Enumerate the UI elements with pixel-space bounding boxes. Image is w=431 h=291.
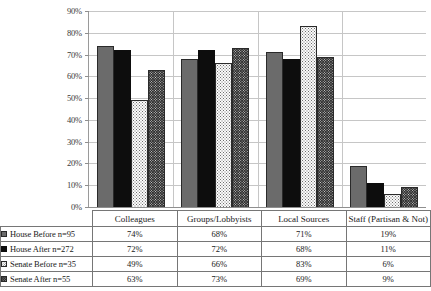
bar-group [89,11,173,207]
legend-swatch-icon [1,276,7,282]
legend-label: House After n=272 [10,244,74,254]
bar [283,59,300,207]
bar [215,63,232,207]
table-cell-value: 72% [177,242,262,257]
table-row: Senate After n=5563%73%69%9% [1,272,431,287]
y-tickmark [85,207,89,208]
legend-swatch-icon [1,231,7,237]
data-table-region: ColleaguesGroups/LobbyistsLocal SourcesS… [0,210,430,287]
y-tick-label: 60% [67,71,82,81]
legend-entry: Senate Before n=35 [1,257,93,272]
y-tick-label: 50% [67,93,82,103]
table-row: House Before n=9574%68%71%19% [1,227,431,242]
category-header: Groups/Lobbyists [177,211,262,227]
y-tick-label: 70% [67,50,82,60]
bar [350,166,367,207]
category-header: Local Sources [262,211,347,227]
legend-swatch-icon [1,246,7,252]
category-header: Colleagues [93,211,178,227]
table-corner-cell [1,211,93,227]
y-axis: 90%80%70%60%50%40%30%20%10%0% [44,0,86,218]
table-cell-value: 11% [346,242,431,257]
bar-groups [89,11,426,207]
bar [97,46,114,207]
bar [300,26,317,207]
legend-entry: House After n=272 [1,242,93,257]
plot-area [88,11,426,207]
table-cell-value: 9% [346,272,431,287]
bar [131,100,148,207]
y-tick-label: 40% [67,115,82,125]
legend-swatch-icon [1,261,7,267]
table-cell-value: 68% [177,227,262,242]
y-tick-label: 80% [67,28,82,38]
y-tick-label: 10% [67,180,82,190]
table-header-row: ColleaguesGroups/LobbyistsLocal SourcesS… [1,211,431,227]
y-tick-label: 90% [67,6,82,16]
table-cell-value: 69% [262,272,347,287]
data-table: ColleaguesGroups/LobbyistsLocal SourcesS… [0,210,431,287]
bar [198,50,215,207]
table-row: House After n=27272%72%68%11% [1,242,431,257]
bar [266,52,283,207]
bar-group [342,11,426,207]
table-cell-value: 49% [93,257,178,272]
bar-group [258,11,342,207]
table-cell-value: 68% [262,242,347,257]
legend-entry: Senate After n=55 [1,272,93,287]
plot-region: 90%80%70%60%50%40%30%20%10%0% [0,0,430,218]
table-cell-value: 83% [262,257,347,272]
bar [384,194,401,207]
table-row: Senate Before n=3549%66%83%6% [1,257,431,272]
y-tick-label: 20% [67,158,82,168]
table-cell-value: 71% [262,227,347,242]
bar [401,187,418,207]
y-tick-label: 30% [67,137,82,147]
bar [232,48,249,207]
bar [114,50,131,207]
legend-label: Senate After n=55 [10,274,70,284]
table-cell-value: 73% [177,272,262,287]
table-cell-value: 6% [346,257,431,272]
bar [148,70,165,207]
category-header: Staff (Partisan & Not) [346,211,431,227]
table-cell-value: 19% [346,227,431,242]
legend-entry: House Before n=95 [1,227,93,242]
bar-group [173,11,257,207]
table-cell-value: 74% [93,227,178,242]
bar [367,183,384,207]
legend-label: Senate Before n=35 [10,259,76,269]
table-cell-value: 63% [93,272,178,287]
table-cell-value: 72% [93,242,178,257]
table-cell-value: 66% [177,257,262,272]
bar [317,57,334,207]
legend-label: House Before n=95 [10,229,75,239]
bar [181,59,198,207]
axis-baseline [89,207,426,208]
